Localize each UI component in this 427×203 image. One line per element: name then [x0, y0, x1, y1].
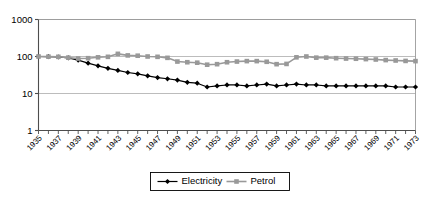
data-point-marker — [145, 54, 150, 59]
data-point-marker — [175, 59, 180, 64]
data-point-marker — [125, 53, 130, 58]
data-point-marker — [294, 55, 299, 60]
data-point-marker — [76, 56, 81, 61]
chart-container: 1000100101 19351937193919411943194519471… — [0, 0, 427, 203]
data-point-marker — [354, 56, 359, 61]
chart-legend: ElectricityPetrol — [151, 173, 290, 191]
data-point-marker — [116, 52, 121, 57]
data-point-marker — [304, 54, 309, 59]
data-point-marker — [245, 59, 250, 64]
data-point-marker — [185, 60, 190, 65]
data-point-marker — [254, 59, 259, 64]
data-point-marker — [235, 59, 240, 64]
data-point-marker — [155, 55, 160, 60]
legend-label: Electricity — [182, 175, 223, 186]
data-point-marker — [334, 56, 339, 61]
data-point-marker — [56, 55, 61, 60]
data-point-marker — [36, 54, 41, 59]
data-point-marker — [344, 56, 349, 61]
data-point-marker — [413, 59, 418, 64]
data-point-marker — [374, 57, 379, 62]
data-point-marker — [135, 53, 140, 58]
data-point-marker — [314, 55, 319, 60]
data-point-marker — [264, 59, 269, 64]
legend-label: Petrol — [251, 175, 276, 186]
data-point-marker — [205, 62, 210, 67]
y-axis-tick-label: 1000 — [11, 14, 32, 25]
data-point-marker — [46, 54, 51, 59]
y-axis-tick-label: 1 — [27, 125, 32, 136]
legend-marker — [234, 179, 239, 184]
data-point-marker — [403, 59, 408, 64]
data-point-marker — [364, 57, 369, 62]
data-point-marker — [324, 55, 329, 60]
data-point-marker — [165, 56, 170, 61]
data-point-marker — [215, 62, 220, 67]
data-point-marker — [274, 62, 279, 67]
y-axis-tick-label: 100 — [17, 51, 33, 62]
y-axis-tick-label: 10 — [22, 88, 33, 99]
data-point-marker — [284, 62, 289, 67]
data-point-marker — [96, 55, 101, 60]
data-point-marker — [225, 60, 230, 65]
data-point-marker — [106, 55, 111, 60]
data-point-marker — [86, 56, 91, 61]
data-point-marker — [66, 55, 71, 60]
log-line-chart: 1000100101 19351937193919411943194519471… — [0, 0, 427, 203]
data-point-marker — [195, 60, 200, 65]
data-point-marker — [383, 58, 388, 63]
data-point-marker — [393, 58, 398, 63]
